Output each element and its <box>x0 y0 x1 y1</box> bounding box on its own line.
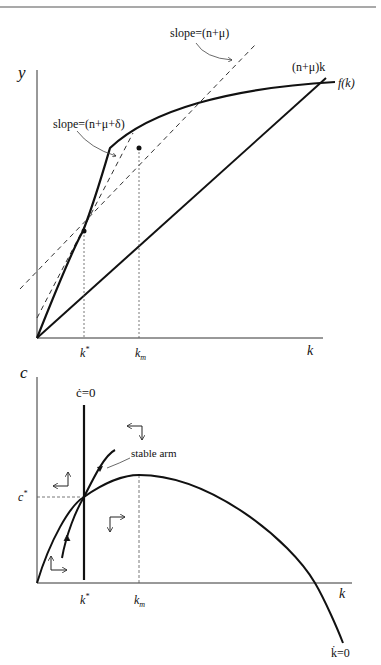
stable-arm-label: stable arm <box>131 447 177 459</box>
c-axis-label: c <box>20 363 28 382</box>
point-kstar <box>82 229 87 234</box>
tick-km: km <box>135 346 146 362</box>
y-axis-label: y <box>16 63 26 82</box>
phase-arrow-lower-left <box>51 556 67 570</box>
phase-arrow-lower-right <box>110 517 125 532</box>
line-label: (n+μ)k <box>292 60 325 74</box>
stable-arm-pointer <box>107 458 130 468</box>
stable-arm-arrow-lower <box>64 535 70 541</box>
kdot-zero-label: k̇=0 <box>331 645 350 660</box>
stable-arm <box>62 450 115 558</box>
tangent-n-mu <box>20 45 255 289</box>
tangent2-label: slope=(n+μ+δ) <box>53 117 125 131</box>
phase-arrow-upper-right <box>127 426 142 440</box>
top-panel: y k slope=(n+μ) slope=(n+μ+δ) (n+μ)k f(k… <box>16 26 355 362</box>
cdot-zero-label: ċ=0 <box>76 385 96 400</box>
tick-cstar: c* <box>18 489 27 504</box>
curve-label: f(k) <box>338 76 355 90</box>
arrow-tangent-n-mu-delta <box>77 131 116 156</box>
tangent1-label: slope=(n+μ) <box>170 26 229 40</box>
bottom-panel: c k ċ=0 k̇=0 stable arm c* k* km <box>18 363 352 660</box>
phase-arrow-upper-left <box>53 472 68 486</box>
arrow-tangent-n-mu <box>196 43 232 60</box>
point-km <box>137 146 142 151</box>
tick-kstar: k* <box>80 345 89 360</box>
k-axis-label: k <box>307 343 314 358</box>
tick-km-bottom: km <box>134 593 145 609</box>
k-axis-label-bottom: k <box>339 586 346 601</box>
solow-ramsey-diagram: y k slope=(n+μ) slope=(n+μ+δ) (n+μ)k f(k… <box>0 0 381 665</box>
tick-kstar-bottom: k* <box>80 592 89 607</box>
